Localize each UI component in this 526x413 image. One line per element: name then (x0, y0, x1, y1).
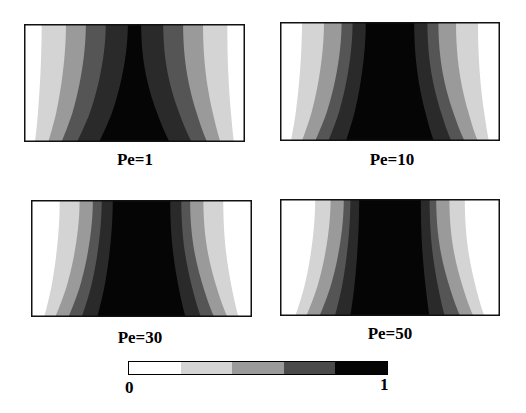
panel-label-pe50: Pe=50 (368, 324, 413, 344)
panel-label-pe10: Pe=10 (370, 150, 415, 170)
colorbar-segment (181, 362, 233, 374)
contour-panel-pe50 (280, 199, 500, 316)
colorbar-segment (335, 362, 387, 374)
panel-label-pe1: Pe=1 (117, 150, 153, 170)
colorbar-min-label: 0 (125, 378, 134, 398)
contour-panel-pe1 (24, 24, 245, 142)
colorbar-max-label: 1 (380, 375, 389, 395)
panel-label-pe30: Pe=30 (118, 328, 163, 348)
contour-panel-pe30 (31, 200, 252, 317)
colorbar-segment (284, 362, 336, 374)
colorbar-segment (129, 362, 181, 374)
colorbar (128, 361, 388, 375)
colorbar-segment (232, 362, 284, 374)
contour-panel-pe10 (280, 22, 500, 141)
